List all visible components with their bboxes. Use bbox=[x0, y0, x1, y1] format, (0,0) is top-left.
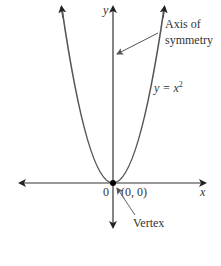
axis-of-symmetry-label-line2: symmetry bbox=[165, 33, 213, 47]
axis-of-symmetry-label-line1: Axis of bbox=[165, 17, 201, 31]
equation-label: y = x2 bbox=[153, 80, 183, 95]
x-axis-label: x bbox=[199, 185, 206, 199]
origin-label: 0 bbox=[103, 185, 109, 199]
y-axis-label: y bbox=[102, 3, 109, 17]
vertex-label: Vertex bbox=[133, 216, 164, 230]
parabola-diagram: y x 0 (0, 0) Axis of symmetry y = x2 Ver… bbox=[0, 0, 221, 266]
vertex-coordinates-label: (0, 0) bbox=[121, 185, 147, 199]
axis-of-symmetry-pointer bbox=[117, 33, 158, 54]
equation-base: y = x bbox=[153, 81, 179, 95]
parabola-left-arrow bbox=[62, 7, 64, 18]
vertex-point bbox=[110, 180, 116, 186]
equation-exponent: 2 bbox=[179, 80, 183, 89]
